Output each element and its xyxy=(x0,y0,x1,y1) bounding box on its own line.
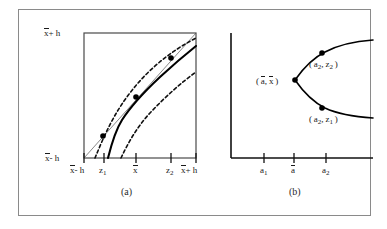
bifurcation-point-marker xyxy=(292,77,298,83)
upper-label-open: ( xyxy=(309,59,312,69)
lower-label-first-sub: 2 xyxy=(318,118,322,126)
panel-b-xlabel-2: a2 xyxy=(322,166,330,175)
fixed-point-xbar-marker xyxy=(133,94,139,100)
upper-branch-point-marker xyxy=(319,50,325,56)
lower-label-open: ( xyxy=(309,114,312,124)
panel-a-xlabel-1: z1 xyxy=(99,166,107,175)
panel-a-xlabel-0-suffix: - h xyxy=(75,165,85,175)
bifurcation-point-label: ( a, x ) xyxy=(256,77,278,86)
panel-a-xlabel-4-base: x xyxy=(181,166,186,175)
panel-b-xlabel-1: a xyxy=(291,166,295,175)
panel-b: ( a, x ) ( a2, z2 ) ( a2, z1 ) a1 a a2 (… xyxy=(198,0,387,229)
panel-a-xlabel-0: x- h xyxy=(70,166,84,175)
panel-a-xlabel-3-sub: 2 xyxy=(170,169,174,177)
panel-a-xlabel-2: x xyxy=(133,166,138,175)
panel-a-ylabel-top-base: x xyxy=(44,29,49,38)
bifurcation-label-sep: , xyxy=(265,76,267,86)
bifurcation-label-close: ) xyxy=(275,76,278,86)
lower-branch-curve xyxy=(295,80,373,118)
panel-a-xlabel-2-base: x xyxy=(133,166,138,175)
panel-a-xlabel-3: z2 xyxy=(166,166,174,175)
panel-a-caption: (a) xyxy=(121,186,132,197)
bifurcation-label-first: a xyxy=(261,77,265,86)
upper-label-first-sub: 2 xyxy=(318,63,322,71)
panel-b-xlabel-2-sub: 2 xyxy=(326,169,330,177)
upper-branch-point-label: ( a2, z2 ) xyxy=(309,60,338,69)
bifurcation-label-open: ( xyxy=(256,76,259,86)
panel-a-ylabel-bottom-base: x xyxy=(45,154,50,163)
panel-b-xlabel-0: a1 xyxy=(260,166,268,175)
upper-label-sep: , xyxy=(321,59,323,69)
lower-branch-point-label: ( a2, z1 ) xyxy=(309,115,338,124)
fixed-point-z2-marker xyxy=(168,55,174,61)
panel-a-xlabel-4: x+ h xyxy=(181,166,197,175)
identity-line xyxy=(84,33,196,158)
panel-a-ylabel-top-suffix: + h xyxy=(49,28,61,38)
panel-a: x+ h x- h x- h z1 x z2 x+ h (a) xyxy=(18,0,198,229)
panel-a-xlabel-0-base: x xyxy=(70,166,75,175)
panel-a-xlabel-4-suffix: + h xyxy=(186,165,198,175)
panel-a-ylabel-bottom-suffix: - h xyxy=(50,153,60,163)
upper-label-close: ) xyxy=(335,59,338,69)
panel-b-caption: (b) xyxy=(289,186,301,197)
figure-container: x+ h x- h x- h z1 x z2 x+ h (a) xyxy=(0,0,387,229)
lower-label-second-sub: 1 xyxy=(329,118,333,126)
lower-label-sep: , xyxy=(321,114,323,124)
lower-branch-point-marker xyxy=(319,105,325,111)
bifurcation-label-second: x xyxy=(269,77,274,86)
panel-b-xlabel-0-sub: 1 xyxy=(264,169,268,177)
lower-label-close: ) xyxy=(335,114,338,124)
upper-confidence-band xyxy=(95,38,196,158)
fixed-point-z1-marker xyxy=(100,133,106,139)
upper-label-second-sub: 2 xyxy=(329,63,333,71)
panel-b-xlabel-1-base: a xyxy=(291,166,295,175)
panel-a-ylabel-bottom: x- h xyxy=(45,154,59,163)
lower-confidence-band xyxy=(121,72,196,158)
panel-a-ylabel-top: x+ h xyxy=(44,29,60,38)
panel-a-xlabel-1-sub: 1 xyxy=(103,169,107,177)
map-function-curve xyxy=(108,46,196,158)
